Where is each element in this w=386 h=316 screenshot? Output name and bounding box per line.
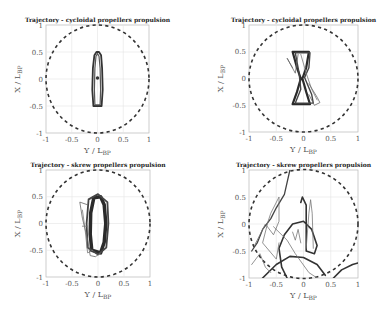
x-tick-label: 1 bbox=[148, 280, 152, 288]
x-tick-label: -0.5 bbox=[270, 281, 284, 289]
trajectory-figure: Trajectory - cycloidal propellers propul… bbox=[0, 0, 386, 316]
x-axis-label: Y / LBP bbox=[289, 291, 317, 301]
x-tick-label: 1 bbox=[356, 281, 360, 289]
subplot-bottom-right: Trajectory - skrew propellers propulsion… bbox=[216, 161, 372, 301]
y-tick-label: -0.5 bbox=[233, 102, 247, 110]
x-axis-label: Y / LBP bbox=[83, 146, 111, 156]
x-tick-label: -1 bbox=[246, 281, 253, 289]
y-tick-label: 1 bbox=[39, 167, 43, 175]
y-axis-label: X / LBP bbox=[216, 65, 226, 92]
y-tick-labels: -1-0.500.51 bbox=[233, 22, 247, 137]
y-tick-label: 0.5 bbox=[32, 193, 43, 201]
x-tick-label: -0.5 bbox=[65, 280, 79, 288]
y-tick-label: -1 bbox=[36, 274, 43, 282]
y-tick-label: 1 bbox=[242, 167, 246, 175]
plot-title: Trajectory - cycloidal propellers propul… bbox=[231, 16, 377, 24]
subplot-top-right: Trajectory - cycloidal propellers propul… bbox=[216, 16, 377, 155]
y-axis-label: X / LBP bbox=[216, 210, 226, 237]
x-tick-label: 0.5 bbox=[118, 280, 129, 288]
x-tick-label: 1 bbox=[147, 136, 151, 144]
x-tick-label: 0.5 bbox=[325, 135, 336, 143]
plot-title: Trajectory - skrew propellers propulsion bbox=[236, 161, 372, 169]
y-tick-label: -1 bbox=[36, 130, 43, 138]
y-tick-label: 0.5 bbox=[235, 194, 246, 202]
x-tick-label: -1 bbox=[246, 135, 253, 143]
x-tick-label: -0.5 bbox=[270, 135, 284, 143]
x-tick-label: 0 bbox=[95, 136, 99, 144]
x-tick-label: -1 bbox=[43, 136, 50, 144]
subplot-top-left: Trajectory - cycloidal propellers propul… bbox=[13, 16, 171, 156]
y-tick-label: 0 bbox=[242, 75, 246, 83]
x-axis-label: Y / LBP bbox=[289, 145, 317, 155]
y-tick-label: 1 bbox=[39, 22, 43, 30]
y-tick-labels: -1-0.500.51 bbox=[30, 167, 44, 282]
y-tick-label: 0 bbox=[39, 220, 43, 228]
y-axis-label: X / LBP bbox=[13, 65, 23, 92]
y-tick-label: 1 bbox=[242, 22, 246, 30]
y-tick-labels: -1-0.500.51 bbox=[233, 167, 247, 283]
x-tick-label: 0.5 bbox=[325, 281, 336, 289]
x-tick-labels: -1-0.500.51 bbox=[246, 135, 361, 143]
y-tick-label: 0.5 bbox=[235, 48, 246, 56]
x-axis-label: Y / LBP bbox=[84, 290, 112, 300]
y-tick-label: 0 bbox=[242, 221, 246, 229]
start-point-marker bbox=[96, 76, 100, 80]
y-axis-label: X / LBP bbox=[13, 210, 23, 237]
x-tick-label: 0.5 bbox=[118, 136, 129, 144]
y-tick-label: -0.5 bbox=[30, 103, 44, 111]
x-tick-label: 0 bbox=[96, 280, 100, 288]
x-tick-label: 1 bbox=[356, 135, 360, 143]
subplot-bottom-left: Trajectory - skrew propellers propulsion… bbox=[13, 161, 166, 300]
plot-title: Trajectory - cycloidal propellers propul… bbox=[25, 16, 171, 24]
x-tick-label: -0.5 bbox=[65, 136, 79, 144]
y-tick-label: -1 bbox=[239, 275, 246, 283]
x-tick-labels: -1-0.500.51 bbox=[246, 281, 361, 289]
x-tick-label: 0 bbox=[301, 135, 305, 143]
y-tick-labels: -1-0.500.51 bbox=[30, 22, 44, 138]
x-tick-label: 0 bbox=[301, 281, 305, 289]
x-tick-labels: -1-0.500.51 bbox=[43, 136, 152, 144]
x-tick-labels: -1-0.500.51 bbox=[43, 280, 153, 288]
y-tick-label: -1 bbox=[239, 129, 246, 137]
y-tick-label: 0 bbox=[39, 76, 43, 84]
y-tick-label: 0.5 bbox=[32, 49, 43, 57]
plot-title: Trajectory - skrew propellers propulsion bbox=[30, 161, 166, 169]
x-tick-label: -1 bbox=[43, 280, 50, 288]
y-tick-label: -0.5 bbox=[233, 248, 247, 256]
y-tick-label: -0.5 bbox=[30, 247, 44, 255]
